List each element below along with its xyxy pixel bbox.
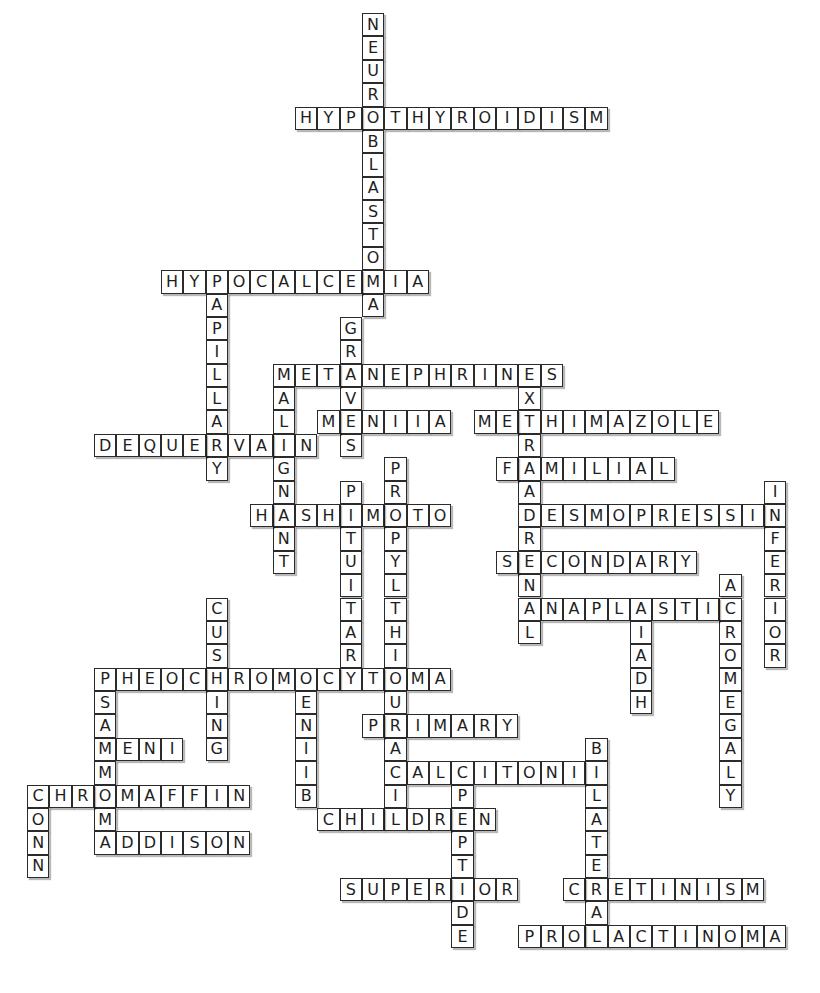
crossword-cell: C: [384, 761, 406, 784]
crossword-cell: H: [541, 410, 563, 433]
crossword-cell: A: [362, 177, 384, 200]
crossword-cell: E: [340, 410, 362, 433]
crossword-cell: L: [206, 387, 228, 410]
crossword-cell: P: [451, 831, 473, 854]
crossword-cell: S: [697, 504, 719, 527]
crossword-cell: H: [295, 107, 317, 130]
crossword-cell: A: [563, 598, 585, 621]
crossword-cell: M: [94, 738, 116, 761]
crossword-grid: NEUROBLASTOMAHYPTHYROIDISMHYPOCALCEIAAPI…: [0, 0, 820, 993]
crossword-cell: N: [541, 761, 563, 784]
crossword-cell: T: [340, 527, 362, 550]
crossword-cell: N: [496, 364, 518, 387]
crossword-cell: E: [340, 270, 362, 293]
crossword-cell: E: [116, 434, 138, 457]
crossword-cell: R: [541, 925, 563, 948]
crossword-cell: R: [384, 481, 406, 504]
crossword-cell: O: [563, 925, 585, 948]
crossword-cell: O: [474, 878, 496, 901]
crossword-cell: U: [340, 551, 362, 574]
crossword-cell: A: [585, 808, 607, 831]
crossword-cell: I: [206, 340, 228, 363]
crossword-cell: I: [407, 714, 429, 737]
crossword-cell: D: [518, 504, 540, 527]
crossword-cell: A: [362, 294, 384, 317]
crossword-cell: A: [630, 644, 652, 667]
crossword-cell: I: [608, 457, 630, 480]
crossword-cell: T: [675, 598, 697, 621]
crossword-cell: I: [541, 107, 563, 130]
crossword-cell: P: [206, 317, 228, 340]
crossword-cell: O: [764, 621, 786, 644]
crossword-cell: M: [94, 761, 116, 784]
crossword-cell: F: [764, 527, 786, 550]
crossword-cell: L: [384, 574, 406, 597]
crossword-cell: E: [183, 434, 205, 457]
crossword-cell: N: [206, 714, 228, 737]
crossword-cell: A: [518, 598, 540, 621]
crossword-cell: H: [340, 808, 362, 831]
crossword-cell: M: [474, 410, 496, 433]
crossword-cell: I: [407, 410, 429, 433]
crossword-cell: R: [518, 527, 540, 550]
crossword-cell: N: [228, 831, 250, 854]
crossword-cell: E: [496, 410, 518, 433]
crossword-cell: M: [362, 504, 384, 527]
crossword-cell: G: [206, 738, 228, 761]
crossword-cell: L: [384, 808, 406, 831]
crossword-cell: R: [764, 644, 786, 667]
crossword-cell: T: [273, 551, 295, 574]
crossword-cell: I: [474, 364, 496, 387]
crossword-cell: Z: [630, 410, 652, 433]
crossword-cell: A: [764, 925, 786, 948]
crossword-cell: A: [407, 270, 429, 293]
crossword-cell: A: [518, 457, 540, 480]
crossword-cell: I: [563, 761, 585, 784]
crossword-cell: A: [139, 785, 161, 808]
crossword-cell: R: [384, 714, 406, 737]
crossword-cell: I: [362, 808, 384, 831]
crossword-cell: A: [206, 410, 228, 433]
crossword-cell: G: [719, 714, 741, 737]
crossword-cell: A: [518, 481, 540, 504]
crossword-cell: E: [764, 551, 786, 574]
crossword-cell: Y: [719, 785, 741, 808]
crossword-cell: N: [273, 527, 295, 550]
crossword-cell: N: [362, 410, 384, 433]
crossword-cell: N: [474, 808, 496, 831]
crossword-cell: I: [675, 925, 697, 948]
crossword-cell: R: [228, 668, 250, 691]
crossword-cell: I: [161, 738, 183, 761]
crossword-cell: O: [429, 504, 451, 527]
crossword-cell: N: [541, 598, 563, 621]
crossword-cell: R: [429, 878, 451, 901]
crossword-cell: E: [518, 551, 540, 574]
crossword-cell: C: [719, 598, 741, 621]
crossword-cell: S: [563, 504, 585, 527]
crossword-cell: O: [384, 504, 406, 527]
crossword-cell: R: [451, 107, 473, 130]
crossword-cell: I: [764, 598, 786, 621]
crossword-cell: E: [719, 691, 741, 714]
crossword-cell: E: [541, 504, 563, 527]
crossword-cell: D: [451, 901, 473, 924]
crossword-cell: S: [362, 200, 384, 223]
crossword-cell: R: [429, 808, 451, 831]
crossword-cell: D: [116, 831, 138, 854]
crossword-cell: D: [94, 434, 116, 457]
crossword-cell: T: [518, 410, 540, 433]
crossword-cell: I: [697, 878, 719, 901]
crossword-cell: A: [273, 270, 295, 293]
crossword-cell: N: [27, 831, 49, 854]
crossword-cell: I: [451, 878, 473, 901]
crossword-cell: H: [407, 107, 429, 130]
crossword-cell: M: [742, 925, 764, 948]
crossword-cell: C: [183, 668, 205, 691]
crossword-cell: E: [451, 925, 473, 948]
crossword-cell: H: [630, 691, 652, 714]
crossword-cell: S: [94, 691, 116, 714]
crossword-cell: S: [719, 504, 741, 527]
crossword-cell: P: [630, 504, 652, 527]
crossword-cell: O: [518, 761, 540, 784]
crossword-cell: Y: [183, 270, 205, 293]
